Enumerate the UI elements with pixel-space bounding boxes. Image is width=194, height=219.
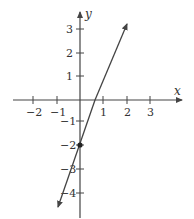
- x-tick-label: 3: [147, 106, 154, 119]
- y-tick-label: −1: [60, 115, 76, 128]
- y-tick-label: 1: [66, 70, 73, 83]
- x-tick-label: 1: [100, 106, 107, 119]
- y-tick-label: −2: [60, 139, 76, 152]
- x-tick-label: −2: [26, 106, 42, 119]
- plotted-line: [95, 24, 127, 100]
- x-tick-label: 2: [124, 106, 131, 119]
- y-axis-label: y: [84, 7, 92, 21]
- y-intercept-point: [77, 142, 82, 147]
- y-tick-label: 2: [66, 47, 73, 60]
- y-tick-label: −3: [60, 163, 76, 176]
- x-axis-label: x: [174, 84, 181, 98]
- y-tick-label: 3: [66, 23, 73, 36]
- coordinate-plane: −2 −1 1 2 3 3 2 1 −1 −2 −3 −4 x y: [0, 0, 194, 219]
